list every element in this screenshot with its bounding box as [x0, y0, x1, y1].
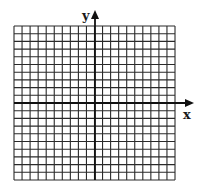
x-axis-arrow-icon: [185, 99, 194, 107]
x-axis-label: x: [183, 107, 191, 122]
y-axis-label: y: [81, 8, 90, 23]
coordinate-grid-diagram: x y: [0, 0, 201, 189]
y-axis-arrow-icon: [91, 10, 99, 19]
